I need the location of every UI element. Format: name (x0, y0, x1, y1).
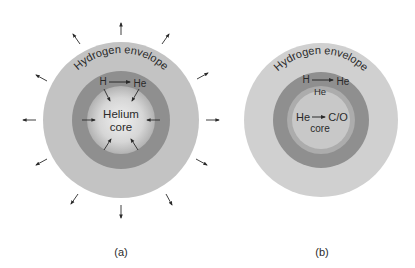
panel-a: Hydrogen envelope H He Helium core (23, 23, 219, 258)
caption-a: (a) (114, 246, 127, 258)
panel-b: Hydrogen envelope H He He He C/O core (b… (244, 43, 398, 258)
shell-reaction-to-a: He (134, 78, 147, 89)
core-label-line2: core (110, 121, 132, 133)
core-reaction-to: C/O (328, 111, 348, 123)
core-label-line1: Helium (103, 108, 139, 120)
helium-core (87, 86, 155, 154)
shell-reaction-from-a: H (99, 76, 106, 87)
caption-b: (b) (315, 246, 328, 258)
shell-reaction-to-b: He (337, 76, 350, 87)
he-layer-label: He (314, 86, 326, 97)
stellar-evolution-diagram: Hydrogen envelope H He Helium core (0, 0, 415, 268)
shell-reaction-from-b: H (302, 74, 309, 85)
core-reaction-from: He (296, 111, 310, 123)
core-label-b: core (310, 123, 330, 134)
